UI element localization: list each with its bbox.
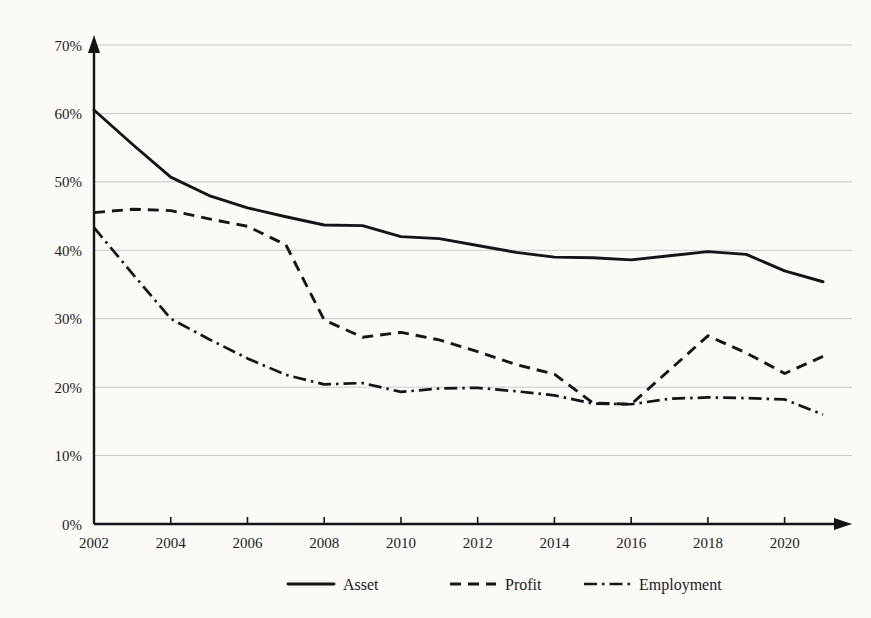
x-axis-tick-labels: 2002200420062008201020122014201620182020 [79,535,800,551]
y-axis-tick-label: 60% [55,106,83,122]
legend-label-asset: Asset [343,576,379,593]
y-axis-tick-label: 30% [55,311,83,327]
chart-canvas: 0%10%20%30%40%50%60%70% 2002200420062008… [0,0,871,618]
x-axis-tick-label: 2012 [463,535,493,551]
x-axis-tick-label: 2020 [770,535,800,551]
legend-label-profit: Profit [505,576,542,593]
line-chart: 0%10%20%30%40%50%60%70% 2002200420062008… [0,0,871,618]
data-series-group [94,110,823,415]
x-axis-tick-label: 2018 [693,535,723,551]
x-axis-tick-label: 2002 [79,535,109,551]
y-axis-tick-labels: 0%10%20%30%40%50%60%70% [55,38,83,533]
series-line-asset [94,110,823,282]
x-axis-tick-label: 2008 [309,535,339,551]
x-axis-tick-label: 2010 [386,535,416,551]
x-axis-tick-label: 2014 [539,535,570,551]
chart-legend: AssetProfitEmployment [288,576,722,594]
y-axis-arrowhead [88,35,100,53]
y-axis-tick-label: 70% [55,38,83,54]
y-axis-tick-label: 20% [55,380,83,396]
series-line-employment [94,228,823,415]
y-axis-tick-label: 50% [55,174,83,190]
series-line-profit [94,209,823,404]
gridlines [94,45,852,524]
x-axis-tick-label: 2006 [232,535,263,551]
x-axis-tick-label: 2004 [156,535,187,551]
x-axis-tick-label: 2016 [616,535,647,551]
y-axis-tick-label: 10% [55,448,83,464]
y-axis-tick-label: 0% [62,517,82,533]
x-axis-arrowhead [834,518,852,530]
legend-label-employment: Employment [639,576,722,594]
y-axis-tick-label: 40% [55,243,83,259]
